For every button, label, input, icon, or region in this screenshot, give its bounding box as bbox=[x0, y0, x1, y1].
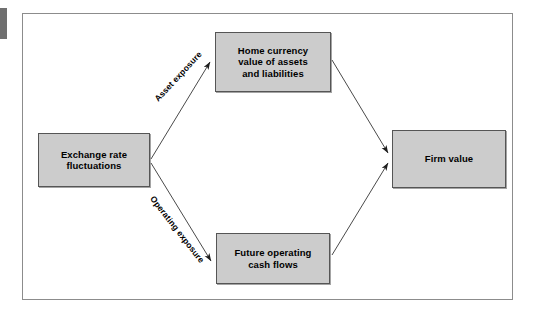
edge-future-to-firm bbox=[332, 163, 388, 255]
node-future-line-2: cash flows bbox=[234, 259, 311, 271]
node-home-line-2: value of assets bbox=[238, 56, 308, 68]
node-firm-value: Firm value bbox=[392, 130, 506, 188]
node-home-line-3: and liabilities bbox=[238, 68, 308, 80]
node-future-line-1: Future operating bbox=[234, 247, 311, 259]
node-future-operating-cash-flows-text: Future operating cash flows bbox=[234, 247, 311, 270]
node-firm-line-1: Firm value bbox=[425, 153, 474, 165]
node-exchange-rate-fluctuations: Exchange rate fluctuations bbox=[38, 133, 150, 187]
node-exchange-rate-fluctuations-text: Exchange rate fluctuations bbox=[61, 149, 127, 172]
node-exchange-line-1: Exchange rate bbox=[61, 149, 127, 161]
node-home-currency-value: Home currency value of assets and liabil… bbox=[215, 32, 331, 92]
node-home-line-1: Home currency bbox=[238, 45, 308, 57]
node-exchange-line-2: fluctuations bbox=[61, 160, 127, 172]
edge-home-to-firm bbox=[332, 60, 388, 153]
diagram-figure: Exchange rate fluctuations Home currency… bbox=[0, 0, 538, 313]
node-firm-value-text: Firm value bbox=[425, 153, 474, 165]
node-future-operating-cash-flows: Future operating cash flows bbox=[216, 233, 330, 284]
node-home-currency-value-text: Home currency value of assets and liabil… bbox=[238, 45, 308, 80]
